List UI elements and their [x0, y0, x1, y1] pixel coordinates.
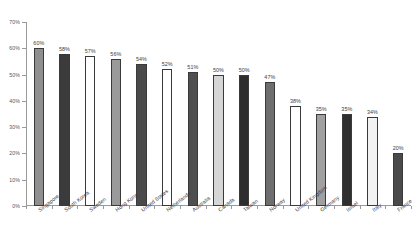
- y-axis-tick-label: 30%: [9, 124, 20, 130]
- bar-value-label: 60%: [33, 40, 44, 46]
- y-axis-tick-label: 70%: [9, 19, 20, 25]
- bar: [290, 106, 300, 206]
- bar: [213, 75, 223, 206]
- bar-value-label: 56%: [110, 51, 121, 57]
- bar-value-label: 38%: [290, 98, 301, 104]
- bar-value-label: 35%: [341, 106, 352, 112]
- bar-slot: [136, 22, 146, 206]
- bar: [162, 69, 172, 206]
- bar-value-label: 47%: [264, 74, 275, 80]
- bar-value-label: 34%: [367, 109, 378, 115]
- bar-value-label: 50%: [213, 67, 224, 73]
- bar-slot: [316, 22, 326, 206]
- bar-slot: [34, 22, 44, 206]
- y-axis-tick-label: 60%: [9, 45, 20, 51]
- bar-slot: [213, 22, 223, 206]
- bar-value-label: 51%: [187, 64, 198, 70]
- bar-value-label: 58%: [59, 46, 70, 52]
- bar: [34, 48, 44, 206]
- y-axis-tick-label: 20%: [9, 150, 20, 156]
- bar-chart: 0%10%20%30%40%50%60%70% 60%58%57%56%54%5…: [0, 0, 417, 234]
- bar: [367, 117, 377, 206]
- bar-slot: [162, 22, 172, 206]
- bar-value-label: 35%: [316, 106, 327, 112]
- bar-value-label: 57%: [85, 48, 96, 54]
- bar-value-label: 52%: [162, 61, 173, 67]
- bar: [59, 54, 69, 206]
- bar-slot: [290, 22, 300, 206]
- y-axis-tick-label: 0%: [12, 203, 20, 209]
- bar-value-label: 50%: [239, 67, 250, 73]
- bar-series: 60%58%57%56%54%52%51%50%50%47%38%35%35%3…: [26, 22, 411, 206]
- bar: [85, 56, 95, 206]
- bar-value-label: 20%: [393, 145, 404, 151]
- bar-slot: [239, 22, 249, 206]
- bar: [342, 114, 352, 206]
- y-axis-tick-label: 10%: [9, 177, 20, 183]
- x-axis-tick: [411, 206, 412, 209]
- plot-area: 0%10%20%30%40%50%60%70% 60%58%57%56%54%5…: [26, 22, 411, 206]
- bar-slot: [111, 22, 121, 206]
- bar: [188, 72, 198, 206]
- bar-slot: [393, 22, 403, 206]
- bar: [239, 75, 249, 206]
- bar-slot: [265, 22, 275, 206]
- y-axis-tick-label: 40%: [9, 98, 20, 104]
- bar-slot: [188, 22, 198, 206]
- bar: [111, 59, 121, 206]
- bar-value-label: 54%: [136, 56, 147, 62]
- bar-slot: [342, 22, 352, 206]
- x-axis-category-labels: SingaporeSouth KoreaSwedenHong KongUnite…: [26, 208, 411, 234]
- bar: [393, 153, 403, 206]
- bar: [136, 64, 146, 206]
- y-axis-tick-label: 50%: [9, 72, 20, 78]
- bar: [265, 82, 275, 206]
